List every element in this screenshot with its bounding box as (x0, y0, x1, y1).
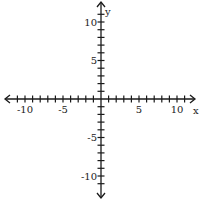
x-tick-label: 10 (171, 104, 184, 115)
x-tick-label: -10 (17, 104, 33, 115)
y-tick-label: 5 (91, 55, 97, 66)
coordinate-plane: -10-5510105-5-10 x y (0, 0, 200, 202)
axes-svg: -10-5510105-5-10 x y (0, 0, 200, 202)
x-tick-label: 5 (136, 104, 142, 115)
y-axis-label: y (104, 6, 111, 17)
y-tick-label: -5 (87, 132, 97, 143)
y-tick-label: 10 (84, 17, 97, 28)
x-axis-label: x (193, 105, 199, 116)
x-tick-label: -5 (58, 104, 68, 115)
y-tick-label: -10 (81, 171, 97, 182)
